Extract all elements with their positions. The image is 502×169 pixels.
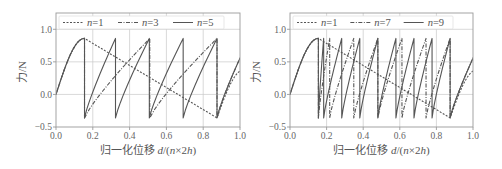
x-tick-label: 0.8	[197, 131, 209, 141]
x-tick-label: 1.0	[467, 131, 479, 141]
y-axis-ticks: −0.50.00.51.0	[35, 25, 56, 133]
x-tick-label: 0.0	[50, 131, 62, 141]
legend: n=1n=3n=5	[59, 16, 224, 29]
left-panel-plot: −0.50.00.51.00.00.20.40.60.81.0归一化位移 d/(…	[16, 13, 249, 157]
y-axis-label: 力/N	[16, 61, 28, 83]
x-tick-label: 0.2	[321, 131, 333, 141]
x-tick-label: 0.0	[284, 131, 296, 141]
x-tick-label: 0.6	[394, 131, 406, 141]
x-tick-label: 0.6	[160, 131, 172, 141]
data-series	[290, 38, 482, 117]
y-tick-label: 0.5	[40, 57, 52, 67]
x-tick-label: 0.4	[357, 131, 369, 141]
legend-label: n=1	[321, 17, 337, 28]
x-axis-label: 归一化位移 d/(n×2h)	[333, 143, 430, 157]
x-tick-label: 1.0	[234, 131, 246, 141]
y-tick-label: 0.0	[274, 90, 286, 100]
y-tick-label: 1.0	[274, 25, 286, 35]
x-axis-label: 归一化位移 d/(n×2h)	[100, 143, 197, 157]
right-panel-plot: −0.50.00.51.00.00.20.40.60.81.0归一化位移 d/(…	[250, 13, 482, 157]
y-tick-label: 0.5	[274, 57, 286, 67]
grid-lines	[290, 13, 473, 127]
series-n-5	[56, 38, 249, 117]
legend-label: n=3	[142, 17, 158, 28]
legend: n=1n=7n=9	[293, 16, 453, 29]
x-tick-label: 0.4	[124, 131, 136, 141]
y-tick-label: 0.0	[40, 90, 52, 100]
legend-label: n=1	[87, 17, 103, 28]
legend-label: n=5	[197, 17, 213, 28]
x-tick-label: 0.2	[87, 131, 99, 141]
data-series	[56, 38, 249, 117]
series-n-9	[290, 38, 482, 117]
y-axis-ticks: −0.50.00.51.0	[269, 25, 290, 133]
x-axis-ticks: 0.00.20.40.60.81.0	[284, 127, 479, 141]
grid-lines	[56, 13, 240, 127]
y-axis-label: 力/N	[250, 61, 262, 83]
series-n-1	[56, 38, 240, 117]
plot-frame	[56, 13, 240, 127]
chart-figure: −0.50.00.51.00.00.20.40.60.81.0归一化位移 d/(…	[0, 0, 502, 169]
x-axis-ticks: 0.00.20.40.60.81.0	[50, 127, 246, 141]
y-tick-label: 1.0	[40, 25, 52, 35]
legend-label: n=7	[374, 17, 390, 28]
x-tick-label: 0.8	[430, 131, 442, 141]
legend-label: n=9	[428, 17, 444, 28]
plot-frame	[290, 13, 473, 127]
